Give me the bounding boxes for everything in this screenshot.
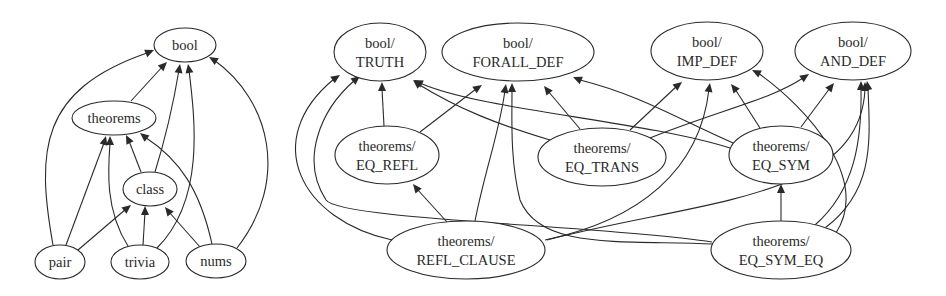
node-label: theorems/	[573, 140, 631, 156]
edge-theorems-eq-sym-eq-to-theorems-eq-sym	[777, 184, 785, 221]
node-pair: pair	[35, 245, 85, 279]
node-label: bool	[172, 37, 198, 53]
node-label: EQ_REFL	[356, 157, 418, 173]
edge-pair-to-theorems	[66, 136, 107, 245]
arrowhead-icon	[752, 70, 762, 78]
node-label: bool/	[838, 34, 869, 50]
edge-theorems-eq-trans-to-bool-forall-def	[544, 86, 580, 129]
arrowhead-icon	[186, 64, 194, 74]
node-theorems-eq-trans: theorems/EQ_TRANS	[538, 128, 666, 186]
arrowhead-icon	[825, 83, 834, 93]
node-label: bool/	[365, 35, 396, 51]
node-ellipse	[538, 128, 666, 186]
node-ellipse	[729, 126, 833, 184]
node-label: EQ_SYM	[752, 157, 810, 173]
node-bool-truth: bool/TRUTH	[334, 23, 426, 81]
node-label: trivia	[125, 254, 156, 270]
node-theorems-refl-clause: theorems/REFL_CLAUSE	[387, 221, 545, 279]
node-class: class	[123, 172, 177, 206]
edge-line	[155, 70, 179, 172]
node-nums: nums	[186, 244, 246, 278]
node-theorems-eq-sym: theorems/EQ_SYM	[729, 126, 833, 184]
node-trivia: trivia	[111, 245, 169, 279]
node-label: theorems/	[437, 233, 495, 249]
node-ellipse	[335, 126, 439, 184]
node-label: REFL_CLAUSE	[416, 252, 515, 268]
node-label: IMP_DEF	[677, 53, 737, 69]
arrowhead-icon	[175, 64, 183, 74]
node-label: class	[136, 181, 165, 197]
edge-line	[382, 89, 384, 126]
arrowhead-icon	[121, 205, 131, 214]
edge-line	[548, 91, 580, 129]
node-label: nums	[200, 253, 232, 269]
node-label: EQ_TRANS	[565, 159, 639, 175]
edge-nums-to-class	[165, 207, 200, 247]
arrowhead-icon	[100, 136, 108, 146]
edge-line	[66, 143, 104, 245]
edge-line	[475, 90, 505, 221]
edge-theorems-eq-sym-to-bool-imp-def	[731, 84, 760, 128]
node-label: pair	[49, 254, 72, 270]
edge-theorems-eq-trans-to-bool-imp-def	[630, 82, 682, 130]
node-label: bool/	[503, 35, 534, 51]
edge-pair-to-bool	[45, 50, 154, 245]
arrowhead-icon	[501, 84, 509, 94]
node-label: theorems/	[358, 138, 416, 154]
edge-theorems-refl-clause-to-theorems-eq-refl	[413, 184, 447, 222]
edge-line	[143, 212, 145, 245]
arrowhead-icon	[140, 133, 150, 142]
node-bool-and-def: bool/AND_DEF	[795, 22, 911, 80]
node-ellipse	[442, 23, 594, 81]
node-ellipse	[387, 221, 545, 279]
node-theorems-eq-sym-eq: theorems/EQ_SYM_EQ	[711, 221, 851, 279]
node-label: theorems/	[752, 233, 810, 249]
arrowhead-icon	[472, 85, 482, 93]
nodes-layer: booltheoremsclasspairtrivianumsbool/TRUT…	[35, 22, 911, 279]
arrowhead-icon	[544, 86, 553, 96]
edge-line	[131, 66, 163, 101]
edge-line	[129, 141, 141, 172]
edge-theorems-eq-refl-to-bool-truth	[378, 82, 386, 126]
edge-class-to-theorems	[126, 135, 141, 172]
edge-line	[630, 86, 677, 130]
node-label: bool/	[692, 34, 723, 50]
edge-line	[801, 88, 830, 127]
node-ellipse	[795, 22, 911, 80]
edge-theorems-eq-sym-to-bool-and-def	[801, 83, 834, 127]
node-label: FORALL_DEF	[472, 54, 563, 70]
node-label: TRUTH	[356, 54, 405, 70]
node-theorems: theorems	[72, 101, 156, 135]
edge-line	[169, 212, 200, 247]
arrowhead-icon	[705, 83, 713, 93]
node-bool: bool	[154, 28, 216, 62]
edge-pair-to-class	[78, 205, 131, 250]
node-label: EQ_SYM_EQ	[739, 252, 824, 268]
arrowhead-icon	[106, 136, 114, 145]
edge-theorems-eq-refl-to-bool-forall-def	[420, 85, 482, 132]
dependency-diagram: booltheoremsclasspairtrivianumsbool/TRUT…	[0, 0, 946, 296]
node-ellipse	[334, 23, 426, 81]
node-bool-imp-def: bool/IMP_DEF	[651, 22, 763, 80]
node-ellipse	[651, 22, 763, 80]
node-bool-forall-def: bool/FORALL_DEF	[442, 23, 594, 81]
arrowhead-icon	[731, 84, 740, 94]
arrowhead-icon	[209, 57, 219, 65]
edge-nums-to-bool	[209, 57, 268, 248]
edge-line	[157, 70, 194, 248]
edge-trivia-to-class	[141, 206, 149, 245]
node-ellipse	[711, 221, 851, 279]
arrowhead-icon	[330, 75, 340, 83]
arrowhead-icon	[378, 82, 386, 91]
node-theorems-eq-refl: theorems/EQ_REFL	[335, 126, 439, 184]
edge-line	[735, 89, 760, 128]
arrowhead-icon	[799, 74, 809, 82]
edge-line	[214, 60, 268, 248]
node-label: theorems/	[752, 138, 810, 154]
edge-theorems-to-bool	[131, 62, 167, 101]
arrowhead-icon	[141, 206, 149, 215]
edge-line	[418, 84, 550, 140]
node-label: theorems	[87, 110, 141, 126]
node-label: AND_DEF	[820, 53, 886, 69]
arrowhead-icon	[508, 83, 516, 92]
